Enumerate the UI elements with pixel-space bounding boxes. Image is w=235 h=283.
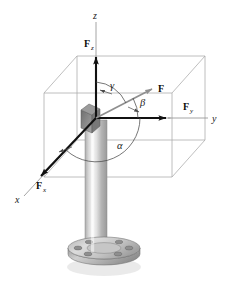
vector-label-Fx: F x [36, 180, 47, 194]
box-edge-bottom-left [44, 140, 77, 177]
bolt-hole [114, 252, 122, 256]
bolt-hole [125, 246, 133, 250]
vector-label-Fz: F z [84, 38, 94, 52]
z-axis-label: z [92, 10, 97, 21]
angle-label-beta: β [139, 97, 146, 108]
vertical-post-assembly [67, 120, 141, 276]
svg-text:y: y [189, 107, 194, 115]
svg-text:z: z [90, 44, 94, 52]
bolt-hole [84, 252, 92, 256]
svg-text:x: x [42, 186, 47, 194]
angle-label-alpha: α [117, 140, 123, 151]
force-diagram-svg: z y x F z F y F x F γ β α [0, 0, 235, 283]
svg-text:F: F [84, 38, 90, 49]
angle-arc-beta [133, 98, 138, 118]
svg-text:F: F [183, 101, 189, 112]
box-edge-bottom-right [172, 140, 205, 177]
angle-label-gamma: γ [110, 80, 115, 91]
bolt-hole [115, 240, 123, 244]
axis-lines [24, 22, 208, 196]
svg-text:F: F [36, 180, 42, 191]
x-axis-label: x [14, 194, 20, 205]
vector-label-Fy: F y [183, 101, 194, 115]
box-edge-top-left [44, 56, 77, 93]
y-axis-label: y [211, 113, 217, 124]
box-front-face [44, 93, 172, 177]
post-highlight [91, 120, 94, 252]
figure-container: z y x F z F y F x F γ β α [0, 0, 235, 283]
vector-label-F: F [158, 83, 164, 94]
post-shaft [85, 120, 107, 256]
reference-box [44, 56, 205, 177]
bolt-hole [74, 246, 82, 250]
box-edge-top-right [172, 56, 205, 93]
